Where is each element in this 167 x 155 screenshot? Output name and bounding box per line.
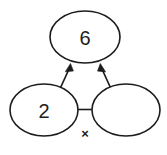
factor-left-value: 2 (38, 100, 49, 122)
arrow-left-head (65, 64, 73, 72)
number-bond-diagram: 6 2 × (0, 0, 167, 155)
factor-right-ellipse[interactable] (92, 84, 160, 136)
multiplication-sign-icon: × (81, 126, 89, 141)
product-value: 6 (79, 27, 90, 49)
diagram-canvas: 6 2 × (0, 0, 167, 155)
arrow-right-head (98, 64, 106, 72)
